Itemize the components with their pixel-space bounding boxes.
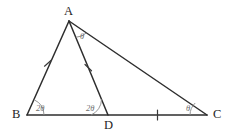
segment-ac — [69, 21, 207, 115]
vertex-label-b: B — [12, 108, 20, 121]
angle-label-c: θ — [186, 104, 190, 113]
vertex-label-c: C — [213, 108, 221, 121]
angle-label-adb: 2θ — [86, 104, 94, 113]
vertex-label-d: D — [104, 119, 113, 132]
geometry-canvas — [0, 0, 233, 133]
angle-label-b: 2θ — [36, 104, 44, 113]
segment-ab — [27, 21, 69, 115]
vertex-label-a: A — [64, 5, 73, 18]
geometry-figure: A B C D 2θ 2θ θ θ — [0, 0, 233, 133]
angle-label-dac: θ — [80, 32, 84, 41]
